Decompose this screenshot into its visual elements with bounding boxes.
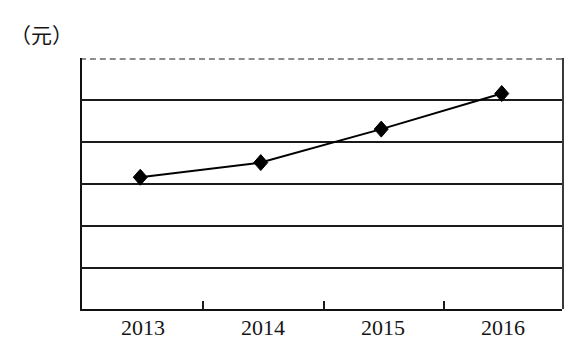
x-tick-label-2014: 2014 <box>241 316 285 340</box>
series-line <box>140 94 502 178</box>
data-point-2014 <box>254 155 268 171</box>
plot-right-border <box>562 58 564 309</box>
data-point-2016 <box>495 86 509 102</box>
x-tick-label-2016: 2016 <box>481 316 525 340</box>
plot-area <box>80 58 562 309</box>
y-axis-unit-label: （元） <box>10 24 73 48</box>
x-tick-label-2013: 2013 <box>121 316 165 340</box>
x-tick-label-2015: 2015 <box>361 316 405 340</box>
data-series-layer <box>80 58 562 309</box>
data-point-2015 <box>374 121 388 137</box>
x-axis-line <box>80 309 562 311</box>
line-chart-figure: （元） 1200 1000 800 600 400 200 0 2013 201… <box>0 0 584 363</box>
data-point-2013 <box>133 169 147 185</box>
